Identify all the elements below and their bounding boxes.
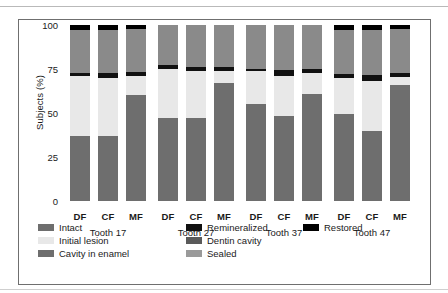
y-tick-75: 75	[47, 64, 58, 75]
chart-legend: IntactInitial lesionCavity in enamelRemi…	[38, 222, 398, 262]
bar-group-tooth-37: DFCFMFTooth 37	[246, 25, 322, 201]
bar-segment-intact	[98, 136, 118, 201]
bar-segment-initial-lesion	[274, 76, 294, 116]
bar-segment-restored	[126, 25, 146, 29]
bar-segment-cavity-in-enamel	[126, 29, 146, 72]
bar-segment-initial-lesion	[158, 69, 178, 118]
bar-segment-remineralized	[274, 70, 294, 76]
x-tick-label-mf: MF	[302, 211, 322, 222]
bar-segment-restored	[98, 25, 118, 30]
bar-segment-cavity-in-enamel	[390, 29, 410, 73]
bar-segment-intact	[274, 116, 294, 201]
bar-segment-intact	[70, 136, 90, 201]
stacked-bar[interactable]	[334, 25, 354, 201]
bar-segment-initial-lesion	[186, 71, 206, 119]
bar-segment-intact	[390, 85, 410, 201]
bar-segment-remineralized	[70, 73, 90, 77]
legend-item[interactable]: Restored	[303, 222, 363, 233]
bar-segment-intact	[214, 83, 234, 201]
x-tick-label-cf: CF	[274, 211, 294, 222]
legend-item[interactable]: Dentin cavity	[186, 235, 268, 246]
bar-segment-initial-lesion	[390, 77, 410, 85]
bar-segment-initial-lesion	[246, 71, 266, 104]
bar-segment-initial-lesion	[214, 71, 234, 83]
bar-segment-remineralized	[186, 67, 206, 71]
legend-column-2: RemineralizedDentin cavitySealed	[186, 222, 268, 260]
bar-segment-remineralized	[334, 74, 354, 78]
bar-segment-cavity-in-enamel	[98, 30, 118, 72]
legend-label: Sealed	[207, 248, 237, 259]
legend-swatch-icon	[186, 237, 202, 244]
x-tick-label-mf: MF	[126, 211, 146, 222]
y-tick-25: 25	[47, 152, 58, 163]
stacked-bar[interactable]	[390, 25, 410, 201]
stacked-bar[interactable]	[98, 25, 118, 201]
bar-group-tooth-47: DFCFMFTooth 47	[334, 25, 410, 201]
y-tick-100: 100	[42, 20, 58, 31]
x-tick-label-df: DF	[334, 211, 354, 222]
bar-segment-intact	[246, 104, 266, 201]
bar-group-tooth-27: DFCFMFTooth 27	[158, 25, 234, 201]
bar-segment-initial-lesion	[302, 73, 322, 94]
legend-column-3: Restored	[303, 222, 363, 235]
bar-group-tooth-17: DFCFMFTooth 17	[70, 25, 146, 201]
legend-item[interactable]: Initial lesion	[38, 235, 129, 246]
x-tick-label-mf: MF	[390, 211, 410, 222]
stacked-bar[interactable]	[362, 25, 382, 201]
legend-label: Intact	[59, 222, 82, 233]
bar-segment-intact	[158, 118, 178, 201]
legend-swatch-icon	[38, 224, 54, 231]
y-tick-0: 0	[53, 196, 58, 207]
bar-segment-initial-lesion	[70, 76, 90, 136]
bar-segment-cavity-in-enamel	[302, 25, 322, 69]
stacked-bar[interactable]	[70, 25, 90, 201]
x-tick-label-cf: CF	[98, 211, 118, 222]
legend-swatch-icon	[303, 224, 319, 231]
stacked-bar[interactable]	[186, 25, 206, 201]
x-tick-label-mf: MF	[214, 211, 234, 222]
bar-segment-cavity-in-enamel	[186, 25, 206, 67]
x-tick-label-cf: CF	[186, 211, 206, 222]
legend-label: Initial lesion	[59, 235, 109, 246]
legend-label: Dentin cavity	[207, 235, 261, 246]
figure-page: Subjects (%) 1007550250 DFCFMFTooth 17DF…	[0, 0, 448, 293]
bar-segment-remineralized	[214, 67, 234, 71]
bar-segment-intact	[334, 114, 354, 201]
bar-segment-remineralized	[246, 69, 266, 71]
legend-item[interactable]: Intact	[38, 222, 129, 233]
stacked-bar[interactable]	[302, 25, 322, 201]
stacked-bar[interactable]	[158, 25, 178, 201]
bar-segment-intact	[126, 95, 146, 201]
bar-segment-remineralized	[158, 65, 178, 69]
stacked-bar[interactable]	[126, 25, 146, 201]
bar-segment-cavity-in-enamel	[214, 25, 234, 67]
legend-label: Remineralized	[207, 222, 268, 233]
legend-swatch-icon	[186, 250, 202, 257]
legend-item[interactable]: Cavity in enamel	[38, 248, 129, 259]
x-tick-label-df: DF	[70, 211, 90, 222]
legend-column-1: IntactInitial lesionCavity in enamel	[38, 222, 129, 260]
bar-segment-restored	[70, 25, 90, 30]
bar-segment-restored	[390, 25, 410, 29]
stacked-bar[interactable]	[214, 25, 234, 201]
stacked-bar[interactable]	[246, 25, 266, 201]
bar-segment-intact	[186, 118, 206, 201]
y-axis-tick-labels: 1007550250	[32, 25, 58, 201]
bar-segment-remineralized	[126, 72, 146, 76]
stacked-bar[interactable]	[274, 25, 294, 201]
bar-segment-restored	[334, 25, 354, 30]
bar-segment-cavity-in-enamel	[70, 30, 90, 72]
stacked-bars-area: DFCFMFTooth 17DFCFMFTooth 27DFCFMFTooth …	[62, 25, 412, 201]
y-tick-50: 50	[47, 108, 58, 119]
bar-segment-cavity-in-enamel	[246, 25, 266, 69]
page-top-rule	[0, 0, 448, 7]
bar-segment-remineralized	[98, 73, 118, 78]
bar-segment-remineralized	[390, 73, 410, 77]
x-tick-label-cf: CF	[362, 211, 382, 222]
legend-item[interactable]: Sealed	[186, 248, 268, 259]
bar-segment-cavity-in-enamel	[334, 30, 354, 74]
legend-label: Cavity in enamel	[59, 248, 129, 259]
legend-item[interactable]: Remineralized	[186, 222, 268, 233]
bar-segment-remineralized	[302, 69, 322, 73]
x-tick-label-df: DF	[158, 211, 178, 222]
